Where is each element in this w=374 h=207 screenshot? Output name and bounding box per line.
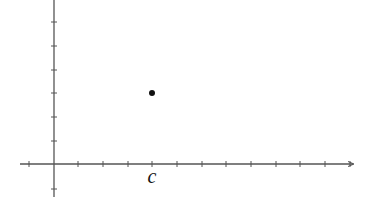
data-point <box>149 90 155 96</box>
y-axis <box>51 0 57 197</box>
x-axis <box>20 161 354 167</box>
axis-labels: c <box>148 165 157 187</box>
coordinate-diagram: c <box>0 0 374 207</box>
plotted-points <box>149 90 155 96</box>
x-axis-label-c: c <box>148 165 157 187</box>
